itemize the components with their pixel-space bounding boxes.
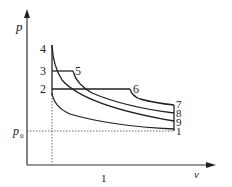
y-axis-arrow-icon — [24, 9, 30, 18]
x-tick-label: 1 — [101, 172, 107, 184]
point-label-6: 6 — [133, 82, 139, 96]
axes — [27, 16, 208, 165]
point-label-5: 5 — [75, 64, 81, 78]
point-label-1: 1 — [176, 125, 182, 137]
curve-5-8 — [73, 71, 174, 113]
diagram-canvas: p v p 0 1 4 3 2 5 6 7 8 9 1 — [0, 0, 232, 187]
p0-label: p — [12, 124, 19, 138]
curve-4-9 — [52, 45, 174, 121]
pv-diagram: p v p 0 1 4 3 2 5 6 7 8 9 1 — [0, 0, 232, 187]
point-label-2: 2 — [40, 82, 46, 96]
point-label-4: 4 — [40, 42, 46, 56]
x-axis-label: v — [194, 168, 199, 180]
y-axis-label: p — [15, 19, 23, 34]
p0-subscript: 0 — [20, 132, 24, 140]
x-axis-arrow-icon — [206, 162, 216, 168]
point-label-3: 3 — [40, 64, 46, 78]
